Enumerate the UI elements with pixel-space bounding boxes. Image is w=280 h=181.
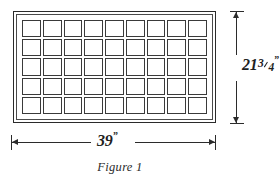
width-value: 39: [97, 132, 113, 149]
height-fraction-numerator: 3: [258, 58, 263, 70]
grid-cell: [167, 58, 186, 75]
panel-inner-frame: [16, 14, 213, 120]
grid-cell: [64, 39, 83, 56]
width-dimension-label: 39”: [97, 133, 118, 149]
grid-cell: [22, 39, 41, 56]
arrow-right-icon: [209, 139, 215, 145]
grid-cell: [84, 58, 103, 75]
grid-cell: [188, 97, 207, 114]
grid-cell: [188, 39, 207, 56]
grid-cell: [167, 39, 186, 56]
grid-cell: [147, 97, 166, 114]
grid-cell: [43, 58, 62, 75]
grid-cell: [84, 78, 103, 95]
grid-cell: [105, 78, 124, 95]
arrow-down-icon: [233, 117, 239, 123]
arrow-left-icon: [12, 139, 18, 145]
grid-cell: [188, 20, 207, 37]
height-dimension: 21 3 4 ”: [228, 11, 280, 124]
height-dimension-label: 21 3 4 ”: [242, 57, 279, 73]
grid-cell: [126, 20, 145, 37]
grid-cell: [64, 58, 83, 75]
grid-cell: [84, 97, 103, 114]
grid-cell: [105, 39, 124, 56]
grid-cell: [84, 20, 103, 37]
grid-cell: [147, 39, 166, 56]
height-fraction-denominator: 4: [268, 62, 273, 74]
grid-cell: [43, 97, 62, 114]
grid-cell: [188, 58, 207, 75]
panel-outer-frame: [13, 11, 216, 123]
height-fraction: 3 4: [258, 60, 274, 72]
grid-cell: [147, 58, 166, 75]
grid-cell: [43, 39, 62, 56]
cell-grid: [22, 20, 207, 114]
grid-cell: [105, 20, 124, 37]
grid-cell: [147, 20, 166, 37]
grid-cell: [22, 78, 41, 95]
grid-cell: [126, 97, 145, 114]
grid-cell: [147, 78, 166, 95]
grid-cell: [105, 97, 124, 114]
figure-caption: Figure 1: [0, 160, 240, 175]
width-inch-mark: ”: [113, 130, 118, 141]
height-inch-mark: ”: [274, 55, 279, 65]
grid-cell: [22, 97, 41, 114]
grid-cell: [105, 58, 124, 75]
grid-cell: [64, 97, 83, 114]
grid-cell: [126, 58, 145, 75]
grid-cell: [84, 39, 103, 56]
grid-cell: [126, 39, 145, 56]
grid-cell: [188, 78, 207, 95]
figure-container: 21 3 4 ” 39” Figure 1: [0, 0, 280, 181]
grid-cell: [22, 58, 41, 75]
grid-cell: [64, 20, 83, 37]
grid-cell: [43, 78, 62, 95]
arrow-up-icon: [233, 12, 239, 18]
grid-cell: [167, 78, 186, 95]
width-dimension: 39”: [11, 128, 219, 154]
grid-cell: [167, 20, 186, 37]
grid-cell: [43, 20, 62, 37]
grid-cell: [126, 78, 145, 95]
height-whole-number: 21: [242, 57, 257, 73]
grid-cell: [64, 78, 83, 95]
grid-cell: [22, 20, 41, 37]
grid-cell: [167, 97, 186, 114]
